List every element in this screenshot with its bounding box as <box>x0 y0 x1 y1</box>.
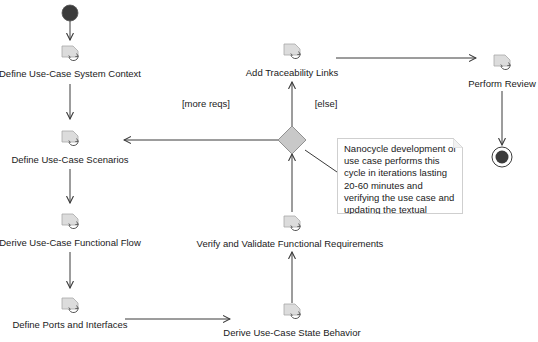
action-add-traceability[interactable]: Add Traceability Links <box>246 44 339 78</box>
call-behavior-action-icon <box>62 131 78 146</box>
guard-else: [else] <box>315 98 338 109</box>
activity-final-node[interactable] <box>492 147 512 167</box>
action-derive-functional-flow[interactable]: Derive Use-Case Functional Flow <box>0 214 141 248</box>
call-behavior-action-icon <box>62 298 78 313</box>
call-behavior-action-icon <box>62 214 78 229</box>
action-label: Verify and Validate Functional Requireme… <box>197 238 384 249</box>
action-define-ports[interactable]: Define Ports and Interfaces <box>12 298 127 330</box>
action-define-system-context[interactable]: Define Use-Case System Context <box>0 46 141 79</box>
call-behavior-action-icon <box>62 46 78 61</box>
action-label: Define Ports and Interfaces <box>12 319 127 330</box>
action-define-scenarios[interactable]: Define Use-Case Scenarios <box>11 131 128 165</box>
note-fold-corner <box>453 138 463 148</box>
guard-more-reqs: [more reqs] <box>182 98 230 109</box>
initial-node[interactable] <box>62 5 78 21</box>
note-comment[interactable]: Nanocycle development of use case perfor… <box>337 138 463 214</box>
action-label: Derive Use-Case Functional Flow <box>0 237 141 248</box>
call-behavior-action-icon <box>284 44 300 59</box>
action-label: Perform Review <box>468 78 536 89</box>
action-label: Define Use-Case Scenarios <box>11 154 128 165</box>
action-perform-review[interactable]: Perform Review <box>468 55 536 89</box>
action-label: Derive Use-Case State Behavior <box>223 327 360 338</box>
call-behavior-action-icon <box>494 55 510 70</box>
decision-node[interactable] <box>278 126 306 154</box>
call-behavior-action-icon <box>284 304 300 319</box>
note-anchor-line <box>305 150 337 172</box>
action-label: Define Use-Case System Context <box>0 68 141 79</box>
action-derive-state-behavior[interactable]: Derive Use-Case State Behavior <box>223 304 360 338</box>
call-behavior-action-icon <box>284 216 300 231</box>
action-label: Add Traceability Links <box>246 67 339 78</box>
action-verify-validate[interactable]: Verify and Validate Functional Requireme… <box>197 216 384 249</box>
